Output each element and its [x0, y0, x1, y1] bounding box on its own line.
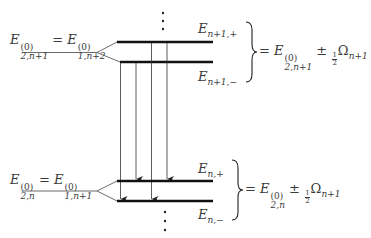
ellipsis-top	[162, 12, 164, 30]
brace-upper	[246, 22, 257, 82]
level-label-n1-minus: En+1,−	[198, 70, 237, 87]
fork-down-lower	[97, 191, 117, 201]
lower-brace-expression: = E(0)2,n ± 12Ωn+1	[245, 182, 340, 210]
transition-arrows	[121, 43, 168, 199]
fork-up-lower	[97, 181, 117, 191]
level-label-n-plus: En,+	[198, 162, 224, 179]
level-label-n1-plus: En+1,+	[198, 22, 237, 39]
upper-brace-expression: = E(0)2,n+1 ± 12Ωn+1	[259, 44, 368, 72]
level-label-n-minus: En,−	[198, 208, 224, 225]
ellipsis-bottom	[164, 211, 166, 231]
upper-unperturbed-label: E(0)2,n+1 = E(0)1,n+2	[10, 33, 106, 61]
lower-unperturbed-label: E(0)2,n = E(0)1,n+1	[10, 173, 92, 201]
brace-lower	[232, 160, 243, 220]
